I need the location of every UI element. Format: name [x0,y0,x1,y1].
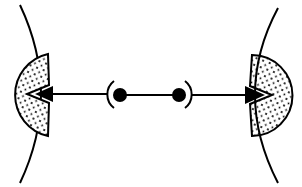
diagram-canvas [0,0,302,187]
right-bracket-arc [185,81,192,108]
left-bracket-arc [107,81,114,108]
diagram-svg [0,0,302,187]
right-dot [172,88,186,102]
